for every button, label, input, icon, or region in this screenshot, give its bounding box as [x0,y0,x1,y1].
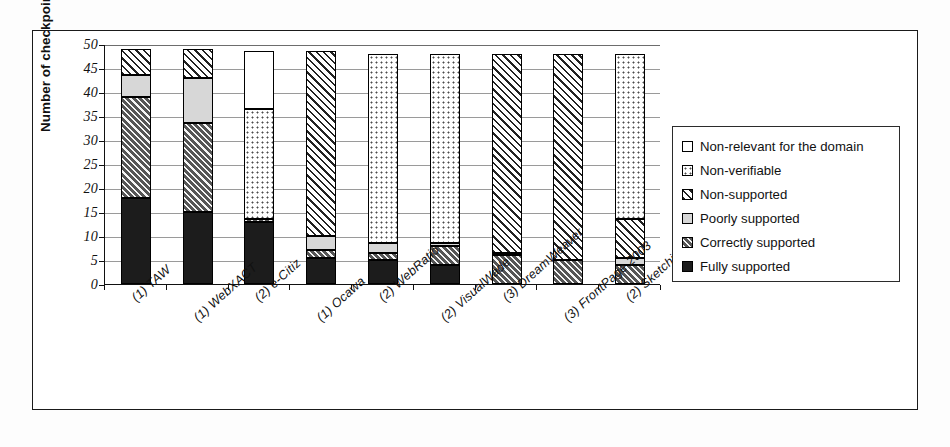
chart-figure: Number of checkpoints 504540353025201510… [0,0,950,447]
y-tick-label: 30 [83,133,98,149]
bar-slot [290,45,352,284]
legend-item[interactable]: Non-relevant for the domain [682,134,893,158]
bar-segment[interactable] [183,123,213,212]
y-tick-label: 25 [83,157,98,173]
legend-label: Non-relevant for the domain [700,139,863,154]
stacked-bar[interactable] [492,54,522,284]
bar-segment[interactable] [183,78,213,124]
y-tick-label: 40 [83,85,98,101]
bar-segment[interactable] [615,54,645,220]
legend-item[interactable]: Non-supported [682,182,893,206]
bar-slot [105,45,167,284]
bar-segment[interactable] [121,97,151,198]
bar-slot [476,45,538,284]
x-tick-mark [413,285,414,290]
bar-slot [229,45,291,284]
legend-swatch-icon [682,165,693,176]
bar-slot [167,45,229,284]
bar-segment[interactable] [121,75,151,97]
bar-segment[interactable] [430,54,460,244]
legend-item[interactable]: Fully supported [682,254,893,278]
y-axis-tick-labels: 50454035302520151050 [58,45,98,285]
legend-item[interactable]: Non-verifiable [682,158,893,182]
bar-segment[interactable] [244,109,274,219]
stacked-bar[interactable] [244,51,274,284]
y-tick-label: 5 [91,253,98,269]
x-tick-mark [289,285,290,290]
bar-segment[interactable] [368,54,398,244]
bar-segment[interactable] [306,51,336,236]
legend-swatch-icon [682,261,693,272]
legend-swatch-icon [682,141,693,152]
x-tick-mark [104,285,105,290]
bar-segment[interactable] [306,250,336,257]
legend-label: Poorly supported [700,211,800,226]
legend-swatch-icon [682,237,693,248]
y-tick-label: 35 [83,109,98,125]
x-tick-mark [536,285,537,290]
stacked-bar[interactable] [368,54,398,284]
legend-swatch-icon [682,213,693,224]
bar-segment[interactable] [553,260,583,284]
legend-label: Correctly supported [700,235,815,250]
legend: Non-relevant for the domainNon-verifiabl… [672,126,900,282]
y-tick-label: 0 [91,277,98,293]
y-tick-label: 15 [83,205,98,221]
bar-segment[interactable] [368,253,398,260]
x-tick-mark [660,285,661,290]
bar-segment[interactable] [183,212,213,284]
legend-label: Non-verifiable [700,163,781,178]
legend-swatch-icon [682,189,693,200]
bar-slot [352,45,414,284]
bar-segment[interactable] [492,253,522,255]
x-axis-tick-labels: (1) TAW(1) WebXACT(2) e-Citiz(1) Ocawa(2… [104,292,704,392]
bar-segment[interactable] [430,265,460,284]
bar-segment[interactable] [244,51,274,109]
y-tick-label: 20 [83,181,98,197]
stacked-bar[interactable] [121,49,151,284]
y-tick-label: 45 [83,61,98,77]
legend-item[interactable]: Poorly supported [682,206,893,230]
plot-area [104,45,660,285]
y-tick-label: 50 [83,37,98,53]
bar-segment[interactable] [121,198,151,284]
legend-label: Non-supported [700,187,787,202]
bar-segment[interactable] [368,243,398,253]
legend-label: Fully supported [700,259,790,274]
bar-segment[interactable] [306,236,336,250]
bar-segment[interactable] [121,49,151,75]
legend-item[interactable]: Correctly supported [682,230,893,254]
bar-segment[interactable] [492,54,522,253]
bar-slot [414,45,476,284]
stacked-bar[interactable] [183,49,213,284]
stacked-bar[interactable] [306,51,336,284]
x-tick-mark [166,285,167,290]
y-tick-label: 10 [83,229,98,245]
bar-group [105,45,660,284]
bar-segment[interactable] [306,258,336,284]
bar-segment[interactable] [183,49,213,78]
y-axis-title: Number of checkpoints [38,0,53,147]
bar-segment[interactable] [244,219,274,221]
